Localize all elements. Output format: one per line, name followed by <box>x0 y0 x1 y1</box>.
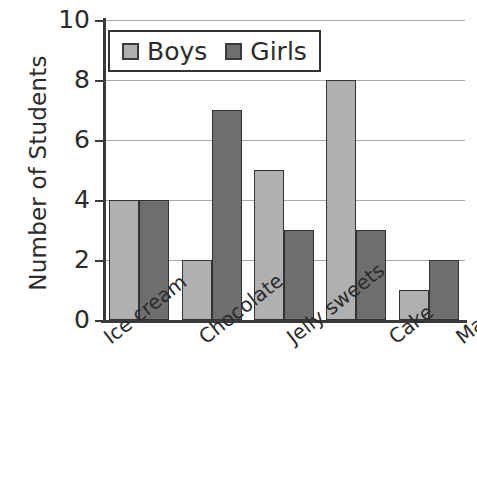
y-axis-tick-label: 8 <box>30 67 90 92</box>
gridline <box>103 80 465 81</box>
legend-swatch-boys-icon <box>122 43 139 60</box>
gridline <box>103 140 465 141</box>
y-axis-tick-label: 0 <box>30 307 90 332</box>
bar-girls-chocolate <box>212 110 242 320</box>
legend-swatch-girls-icon <box>225 43 242 60</box>
y-axis-line <box>103 18 106 322</box>
chart-legend: Boys Girls <box>108 30 321 72</box>
y-axis-tick-label: 2 <box>30 247 90 272</box>
legend-item-girls: Girls <box>225 39 307 64</box>
legend-label-boys: Boys <box>147 39 207 64</box>
legend-label-girls: Girls <box>250 39 307 64</box>
bar-girls-jelly-sweets <box>284 230 314 320</box>
bar-chart: Number of Students 0246810 Ice creamChoc… <box>0 0 477 490</box>
y-axis-tick-label: 10 <box>30 7 90 32</box>
gridline <box>103 20 465 21</box>
legend-item-boys: Boys <box>122 39 207 64</box>
y-axis-tick-label: 6 <box>30 127 90 152</box>
bar-girls-malva-pudding <box>429 260 459 320</box>
y-axis-tick-label: 4 <box>30 187 90 212</box>
